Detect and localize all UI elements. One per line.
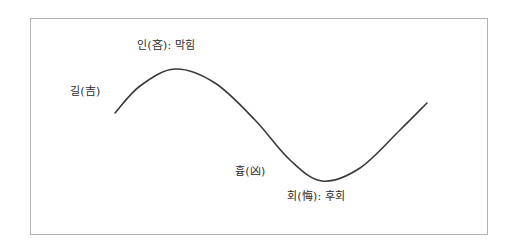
label-hoe-regret: 회(悔): 후회 — [287, 190, 345, 203]
diagram-root: 길(吉) 인(吝): 막힘 흉(凶) 회(悔): 후회 — [0, 0, 517, 251]
label-gil-fortune: 길(吉) — [70, 85, 100, 98]
fortune-cycle-curve — [115, 69, 427, 181]
curve-layer — [0, 0, 517, 251]
label-hyung-misfortune: 흉(凶) — [235, 165, 265, 178]
label-in-obstruction: 인(吝): 막힘 — [137, 39, 195, 52]
